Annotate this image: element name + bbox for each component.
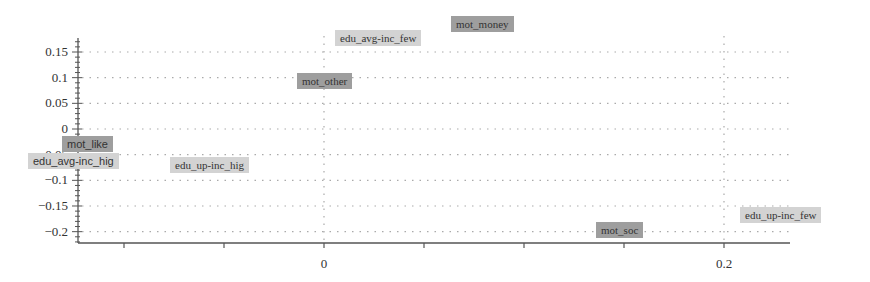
y-tick-label: 0.05 (45, 95, 68, 110)
point-label-edu-up-inc-hig: edu_up-inc_hig (170, 157, 249, 173)
point-label-edu-avg-inc-hig: edu_avg-inc_hig (28, 153, 119, 169)
y-tick-label: −0.15 (38, 198, 68, 213)
point-label-edu-up-inc-few: edu_up-inc_few (740, 207, 821, 223)
x-tick-label: 0 (321, 256, 328, 271)
point-label-edu-avg-inc-few: edu_avg-inc_few (335, 30, 421, 46)
x-axis-ticks: 00.2 (124, 243, 732, 271)
y-tick-label: 0.1 (52, 70, 68, 85)
point-label-mot-soc: mot_soc (596, 222, 643, 238)
y-tick-label: 0 (62, 121, 69, 136)
point-label-mot-like: mot_like (62, 136, 113, 152)
point-label-mot-money: mot_money (451, 16, 514, 32)
x-tick-label: 0.2 (716, 256, 732, 271)
point-label-mot-other: mot_other (297, 73, 352, 89)
y-tick-label: −0.2 (44, 224, 68, 239)
y-tick-label: −0.1 (44, 172, 68, 187)
scatter-plot: 0.150.10.050−0.1−0.15−0.2−0.05 00.2 (0, 0, 870, 282)
axes (78, 38, 790, 243)
grid-lines (82, 36, 790, 243)
y-tick-label: 0.15 (45, 44, 68, 59)
